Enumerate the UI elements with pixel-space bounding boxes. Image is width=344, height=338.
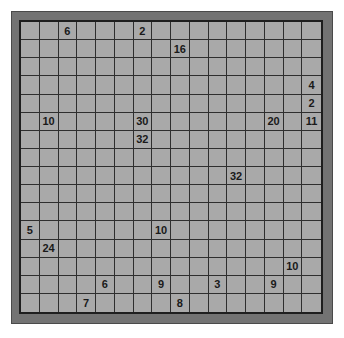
grid-cell[interactable] xyxy=(284,76,303,94)
grid-cell[interactable] xyxy=(190,240,209,258)
grid-cell[interactable] xyxy=(115,113,134,131)
grid-cell[interactable] xyxy=(302,221,321,239)
grid-cell[interactable] xyxy=(59,131,78,149)
clue-cell[interactable]: 30 xyxy=(134,113,153,131)
grid-cell[interactable] xyxy=(96,294,115,312)
grid-cell[interactable] xyxy=(246,58,265,76)
grid-cell[interactable] xyxy=(284,203,303,221)
grid-cell[interactable] xyxy=(265,58,284,76)
grid-cell[interactable] xyxy=(115,221,134,239)
grid-cell[interactable] xyxy=(190,131,209,149)
grid-cell[interactable] xyxy=(115,276,134,294)
clue-cell[interactable]: 32 xyxy=(134,131,153,149)
grid-cell[interactable] xyxy=(190,258,209,276)
grid-cell[interactable] xyxy=(284,113,303,131)
grid-cell[interactable] xyxy=(59,40,78,58)
grid-cell[interactable] xyxy=(284,276,303,294)
grid-cell[interactable] xyxy=(171,149,190,167)
grid-cell[interactable] xyxy=(21,258,40,276)
clue-cell[interactable]: 5 xyxy=(21,221,40,239)
grid-cell[interactable] xyxy=(152,185,171,203)
grid-cell[interactable] xyxy=(171,22,190,40)
grid-cell[interactable] xyxy=(152,76,171,94)
grid-cell[interactable] xyxy=(59,76,78,94)
grid-cell[interactable] xyxy=(190,95,209,113)
grid-cell[interactable] xyxy=(115,58,134,76)
grid-cell[interactable] xyxy=(209,294,228,312)
grid-cell[interactable] xyxy=(21,276,40,294)
grid-cell[interactable] xyxy=(152,58,171,76)
grid-cell[interactable] xyxy=(265,95,284,113)
grid-cell[interactable] xyxy=(227,40,246,58)
grid-cell[interactable] xyxy=(96,203,115,221)
grid-cell[interactable] xyxy=(190,113,209,131)
grid-cell[interactable] xyxy=(96,22,115,40)
grid-cell[interactable] xyxy=(284,149,303,167)
clue-cell[interactable]: 4 xyxy=(302,76,321,94)
grid-cell[interactable] xyxy=(209,95,228,113)
grid-cell[interactable] xyxy=(21,40,40,58)
grid-cell[interactable] xyxy=(40,185,59,203)
grid-cell[interactable] xyxy=(134,221,153,239)
grid-cell[interactable] xyxy=(246,95,265,113)
grid-cell[interactable] xyxy=(246,40,265,58)
grid-cell[interactable] xyxy=(77,167,96,185)
grid-cell[interactable] xyxy=(190,22,209,40)
grid-cell[interactable] xyxy=(40,167,59,185)
grid-cell[interactable] xyxy=(190,40,209,58)
grid-cell[interactable] xyxy=(171,131,190,149)
grid-cell[interactable] xyxy=(209,185,228,203)
grid-cell[interactable] xyxy=(265,240,284,258)
grid-cell[interactable] xyxy=(246,258,265,276)
grid-cell[interactable] xyxy=(284,22,303,40)
grid-cell[interactable] xyxy=(115,185,134,203)
grid-cell[interactable] xyxy=(302,58,321,76)
grid-cell[interactable] xyxy=(134,203,153,221)
clue-cell[interactable]: 9 xyxy=(152,276,171,294)
grid-cell[interactable] xyxy=(59,58,78,76)
grid-cell[interactable] xyxy=(152,167,171,185)
grid-cell[interactable] xyxy=(21,240,40,258)
grid-cell[interactable] xyxy=(171,276,190,294)
grid-cell[interactable] xyxy=(302,22,321,40)
clue-cell[interactable]: 10 xyxy=(284,258,303,276)
grid-cell[interactable] xyxy=(134,58,153,76)
grid-cell[interactable] xyxy=(227,258,246,276)
clue-cell[interactable]: 8 xyxy=(171,294,190,312)
grid-cell[interactable] xyxy=(265,203,284,221)
grid-cell[interactable] xyxy=(152,294,171,312)
grid-cell[interactable] xyxy=(246,294,265,312)
grid-cell[interactable] xyxy=(77,221,96,239)
grid-cell[interactable] xyxy=(40,76,59,94)
grid-cell[interactable] xyxy=(209,131,228,149)
grid-cell[interactable] xyxy=(40,258,59,276)
grid-cell[interactable] xyxy=(190,276,209,294)
grid-cell[interactable] xyxy=(171,221,190,239)
grid-cell[interactable] xyxy=(115,95,134,113)
grid-cell[interactable] xyxy=(40,221,59,239)
grid-cell[interactable] xyxy=(96,221,115,239)
grid-cell[interactable] xyxy=(227,149,246,167)
grid-cell[interactable] xyxy=(302,131,321,149)
grid-cell[interactable] xyxy=(246,113,265,131)
grid-cell[interactable] xyxy=(77,258,96,276)
grid-cell[interactable] xyxy=(190,203,209,221)
grid-cell[interactable] xyxy=(115,131,134,149)
grid-cell[interactable] xyxy=(227,276,246,294)
grid-cell[interactable] xyxy=(246,149,265,167)
clue-cell[interactable]: 2 xyxy=(134,22,153,40)
clue-cell[interactable]: 7 xyxy=(77,294,96,312)
grid-cell[interactable] xyxy=(40,22,59,40)
grid-cell[interactable] xyxy=(134,167,153,185)
grid-cell[interactable] xyxy=(171,185,190,203)
grid-cell[interactable] xyxy=(209,113,228,131)
grid-cell[interactable] xyxy=(77,149,96,167)
clue-cell[interactable]: 9 xyxy=(265,276,284,294)
grid-cell[interactable] xyxy=(152,203,171,221)
grid-cell[interactable] xyxy=(77,113,96,131)
grid-cell[interactable] xyxy=(265,167,284,185)
grid-cell[interactable] xyxy=(77,95,96,113)
grid-cell[interactable] xyxy=(21,294,40,312)
grid-cell[interactable] xyxy=(59,149,78,167)
grid-cell[interactable] xyxy=(227,203,246,221)
